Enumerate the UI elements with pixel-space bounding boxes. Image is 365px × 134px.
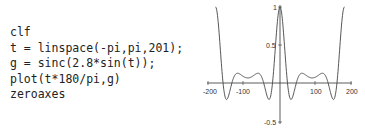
y-axis: 1 0.5 -0.5 [264, 4, 282, 126]
x-tick-label: 100 [310, 88, 322, 95]
sinc-plot: -200 -100 100 200 1 0.5 -0.5 [0, 0, 365, 134]
x-tick-label: -200 [203, 88, 217, 95]
y-tick-label: 1 [273, 4, 277, 11]
x-tick-label: 200 [346, 88, 358, 95]
y-tick-label: -0.5 [264, 119, 276, 126]
y-tick-label: 0.5 [266, 42, 276, 49]
x-tick-label: -100 [236, 88, 250, 95]
